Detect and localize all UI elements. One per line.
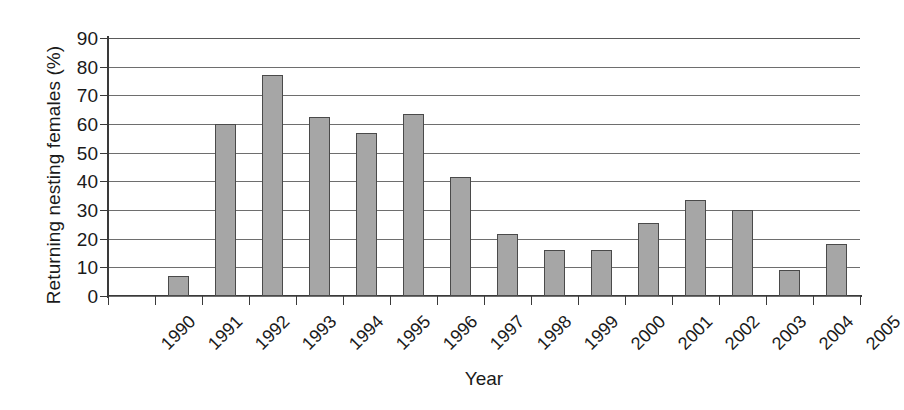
x-axis-tick-mark bbox=[484, 296, 485, 305]
y-axis-tick-label: 40 bbox=[48, 172, 98, 191]
bar-1993 bbox=[262, 75, 284, 296]
y-axis-tick-label: 70 bbox=[48, 86, 98, 105]
y-axis-tick-label: 80 bbox=[48, 57, 98, 76]
bar-1992 bbox=[215, 124, 237, 296]
bars-layer bbox=[108, 38, 860, 296]
x-axis-tick-label-2005: 2005 bbox=[862, 312, 903, 353]
x-axis-title: Year bbox=[108, 368, 860, 390]
bar-2003 bbox=[732, 210, 754, 296]
x-axis-tick-mark bbox=[719, 296, 720, 305]
x-axis-tick-mark bbox=[813, 296, 814, 305]
y-axis-tick-label: 0 bbox=[48, 287, 98, 306]
y-axis-tick-mark bbox=[100, 67, 109, 68]
x-axis-tick-mark bbox=[108, 296, 109, 305]
y-axis-tick-mark bbox=[100, 95, 109, 96]
y-axis-tick-label: 20 bbox=[48, 229, 98, 248]
x-axis-tick-label-1990: 1990 bbox=[157, 312, 198, 353]
x-axis-tick-mark bbox=[625, 296, 626, 305]
x-axis-tick-mark bbox=[672, 296, 673, 305]
y-axis-tick-mark bbox=[100, 181, 109, 182]
bar-1995 bbox=[356, 133, 378, 296]
x-axis-tick-mark bbox=[531, 296, 532, 305]
bar-1991 bbox=[168, 276, 190, 296]
x-axis-tick-label-1998: 1998 bbox=[533, 312, 574, 353]
x-axis-tick-label-1992: 1992 bbox=[251, 312, 292, 353]
x-axis-tick-mark bbox=[155, 296, 156, 305]
x-axis-tick-label-2000: 2000 bbox=[627, 312, 668, 353]
bar-1996 bbox=[403, 114, 425, 296]
x-axis-tick-mark bbox=[860, 296, 861, 305]
y-axis-tick-mark bbox=[100, 267, 109, 268]
x-axis-tick-mark bbox=[437, 296, 438, 305]
bar-1998 bbox=[497, 234, 519, 296]
x-axis-tick-label-1994: 1994 bbox=[345, 312, 386, 353]
bar-1997 bbox=[450, 177, 472, 296]
bar-1994 bbox=[309, 117, 331, 296]
x-axis-tick-label-1999: 1999 bbox=[580, 312, 621, 353]
x-axis-tick-label-1997: 1997 bbox=[486, 312, 527, 353]
y-axis-tick-labels: 0102030405060708090 bbox=[48, 38, 98, 296]
x-axis-tick-label-1993: 1993 bbox=[298, 312, 339, 353]
y-axis-tick-label: 10 bbox=[48, 258, 98, 277]
y-axis-tick-label: 90 bbox=[48, 29, 98, 48]
x-axis-tick-label-1991: 1991 bbox=[204, 312, 245, 353]
x-axis-tick-mark bbox=[343, 296, 344, 305]
x-axis-tick-label-2001: 2001 bbox=[674, 312, 715, 353]
x-axis-tick-mark bbox=[296, 296, 297, 305]
y-axis-tick-mark bbox=[100, 38, 109, 39]
bar-2005 bbox=[826, 244, 848, 296]
y-axis-tick-mark bbox=[100, 239, 109, 240]
x-axis-tick-label-2003: 2003 bbox=[768, 312, 809, 353]
x-axis-tick-mark bbox=[766, 296, 767, 305]
y-axis-tick-mark bbox=[100, 210, 109, 211]
y-axis-tick-mark bbox=[100, 124, 109, 125]
y-axis-tick-mark bbox=[100, 153, 109, 154]
x-axis-tick-mark bbox=[390, 296, 391, 305]
x-axis-tick-mark bbox=[202, 296, 203, 305]
bar-2001 bbox=[638, 223, 660, 296]
x-axis-tick-mark bbox=[249, 296, 250, 305]
x-axis-tick-mark bbox=[578, 296, 579, 305]
x-axis-tick-label-2002: 2002 bbox=[721, 312, 762, 353]
y-axis-tick-label: 50 bbox=[48, 143, 98, 162]
x-axis-tick-label-1996: 1996 bbox=[439, 312, 480, 353]
y-axis-tick-label: 60 bbox=[48, 115, 98, 134]
bar-2000 bbox=[591, 250, 613, 296]
bar-1999 bbox=[544, 250, 566, 296]
y-axis-tick-label: 30 bbox=[48, 201, 98, 220]
x-axis-tick-label-2004: 2004 bbox=[815, 312, 856, 353]
bar-2002 bbox=[685, 200, 707, 296]
bar-2004 bbox=[779, 270, 801, 296]
x-axis-tick-label-1995: 1995 bbox=[392, 312, 433, 353]
